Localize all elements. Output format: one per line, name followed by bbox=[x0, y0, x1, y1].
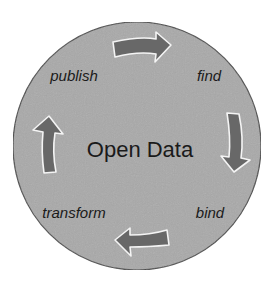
stage-label-transform: transform bbox=[42, 205, 105, 220]
center-label: Open Data bbox=[87, 139, 193, 161]
stage-label-find: find bbox=[197, 68, 221, 83]
open-data-cycle-diagram: Open Data publish find bind transform bbox=[0, 0, 275, 291]
stage-label-bind: bind bbox=[196, 205, 224, 220]
stage-label-publish: publish bbox=[50, 68, 98, 83]
